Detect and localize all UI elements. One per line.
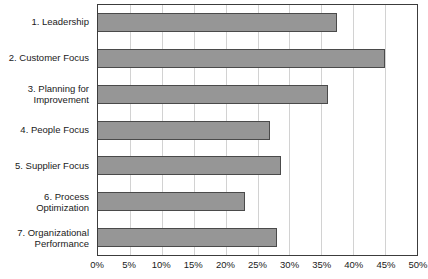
value-tick-label: 50% — [408, 258, 427, 271]
value-tick-label: 10% — [152, 258, 171, 271]
value-tick-label: 35% — [312, 258, 331, 271]
bar-slot — [98, 5, 417, 41]
bar — [97, 13, 337, 32]
bar-slot — [98, 184, 417, 220]
value-axis: 0%5%10%15%20%25%30%35%40%45%50% — [97, 258, 418, 274]
bar-slot — [98, 112, 417, 148]
value-tick-label: 5% — [122, 258, 136, 271]
value-tick-label: 0% — [90, 258, 104, 271]
value-tick-label: 20% — [216, 258, 235, 271]
bar — [97, 49, 385, 68]
category-label: 5. Supplier Focus — [0, 148, 93, 184]
value-tick-label: 15% — [184, 258, 203, 271]
category-label: 4. People Focus — [0, 112, 93, 148]
value-tick-label: 45% — [376, 258, 395, 271]
category-label: 6. Process Optimization — [0, 184, 93, 220]
bar-slot — [98, 219, 417, 255]
bar-chart: 1. Leadership2. Customer Focus3. Plannin… — [0, 0, 428, 279]
bar-slot — [98, 148, 417, 184]
bar-series — [98, 5, 417, 255]
bar-slot — [98, 76, 417, 112]
bar — [97, 156, 281, 175]
bar — [97, 85, 328, 104]
category-axis: 1. Leadership2. Customer Focus3. Plannin… — [0, 4, 93, 256]
bar — [97, 192, 245, 211]
value-tick-label: 30% — [280, 258, 299, 271]
category-label: 3. Planning for Improvement — [0, 76, 93, 112]
bar-slot — [98, 41, 417, 77]
plot-area — [97, 4, 418, 256]
value-tick-label: 25% — [248, 258, 267, 271]
bar — [97, 121, 270, 140]
category-label: 1. Leadership — [0, 4, 93, 40]
bar — [97, 228, 277, 247]
category-label: 2. Customer Focus — [0, 40, 93, 76]
value-tick-label: 40% — [344, 258, 363, 271]
category-label: 7. Organizational Performance — [0, 220, 93, 256]
